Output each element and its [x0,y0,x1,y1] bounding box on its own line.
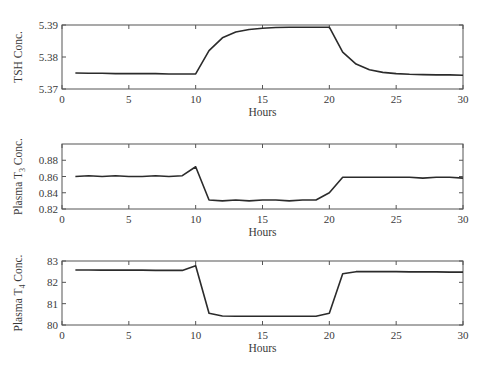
x-axis-label: Hours [248,106,277,118]
subplot-plasma-t4: 05101520253080818283 Hours Plasma T4 Con… [12,254,469,354]
axes-frame [62,25,463,89]
y-tick-label: 5.39 [39,19,59,31]
x-tick-label: 5 [126,93,132,105]
x-tick-label: 5 [126,329,132,341]
y-tick-label: 82 [47,276,58,288]
y-axis-label: Plasma T4 Conc. [12,254,27,331]
series-line-plasma-t3 [75,167,463,201]
x-tick-label: 15 [257,213,269,225]
x-tick-label: 20 [324,213,336,225]
x-tick-label: 20 [324,329,336,341]
ticks: 0510152025305.375.385.39 [39,19,469,105]
x-tick-label: 25 [391,93,403,105]
series-line-plasma-t4 [75,266,463,317]
x-tick-label: 10 [190,213,202,225]
y-tick-label: 80 [47,319,59,331]
y-tick-label: 5.37 [39,83,59,95]
series-line-tsh [75,27,463,75]
y-axis-label-main: TSH Conc. [12,31,24,83]
x-tick-label: 20 [324,93,336,105]
y-tick-label: 5.38 [39,51,59,63]
x-axis-label: Hours [248,342,277,354]
y-tick-label: 0.86 [39,171,59,183]
x-tick-label: 25 [391,213,403,225]
x-tick-label: 15 [257,93,269,105]
x-tick-label: 15 [257,329,269,341]
subplot-tsh: 0510152025305.375.385.39 Hours TSH Conc. [12,19,469,118]
x-tick-label: 0 [59,329,65,341]
x-tick-label: 0 [59,213,65,225]
y-axis-label: Plasma T3 Conc. [12,138,27,215]
ticks: 05101520253080818283 [47,255,469,341]
ticks: 0510152025300.820.840.860.88 [39,144,469,225]
y-tick-label: 83 [47,255,59,267]
x-tick-label: 30 [458,213,470,225]
y-tick-label: 0.88 [39,154,59,166]
x-tick-label: 0 [59,93,65,105]
y-tick-label: 81 [47,298,58,310]
x-tick-label: 10 [190,93,202,105]
y-axis-label-suffix: Conc. [12,254,24,284]
x-axis-label: Hours [248,226,277,238]
y-axis-label-main: Plasma T [12,172,24,215]
y-tick-label: 0.82 [39,203,58,215]
x-tick-label: 30 [458,329,470,341]
y-axis-label-suffix: Conc. [12,138,24,168]
x-tick-label: 10 [190,329,202,341]
x-tick-label: 5 [126,213,132,225]
x-tick-label: 25 [391,329,403,341]
y-tick-label: 0.84 [39,187,59,199]
y-axis-label: TSH Conc. [12,31,24,83]
y-axis-label-main: Plasma T [12,289,24,332]
figure: 0510152025305.375.385.39 Hours TSH Conc.… [0,0,487,371]
x-tick-label: 30 [458,93,470,105]
subplot-plasma-t3: 0510152025300.820.840.860.88 Hours Plasm… [12,138,469,238]
